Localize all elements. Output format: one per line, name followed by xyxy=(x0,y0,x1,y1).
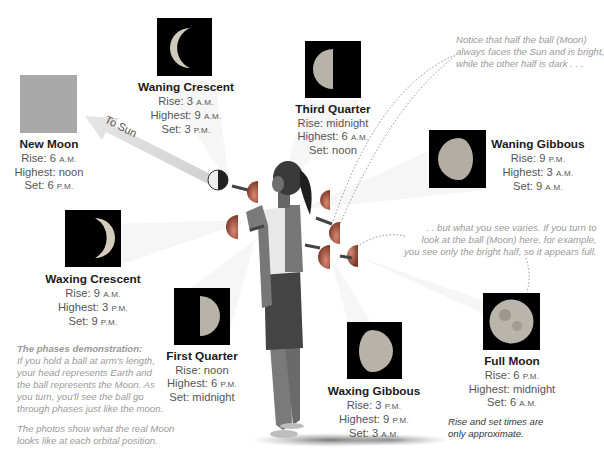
first-quarter-image xyxy=(174,288,230,345)
new-moon-image xyxy=(20,75,77,133)
third-quarter-label: Third Quarter Rise: midnight Highest: 6 … xyxy=(290,103,376,157)
note-approximate: Rise and set times are only approximate. xyxy=(448,416,543,440)
new-moon-label: New Moon Rise: 6 A.M. Highest: noon Set:… xyxy=(11,138,87,193)
full-moon-image xyxy=(483,293,540,350)
third-quarter-image xyxy=(305,41,361,98)
phase-name: New Moon xyxy=(11,138,87,151)
waxing-gibbous-image xyxy=(347,322,402,379)
waxing-crescent-image xyxy=(65,210,121,267)
note-phases-demonstration: The phases demonstration: If you hold a … xyxy=(17,343,174,447)
waxing-crescent-label: Waxing Crescent Rise: 9 A.M. Highest: 3 … xyxy=(45,273,141,329)
waning-crescent-image xyxy=(157,18,212,76)
waning-gibbous-image xyxy=(429,130,486,188)
waning-crescent-label: Waning Crescent Rise: 3 A.M. Highest: 9 … xyxy=(138,81,234,137)
full-moon-label: Full Moon Rise: 6 P.M. Highest: midnight… xyxy=(468,355,556,410)
waxing-gibbous-label: Waxing Gibbous Rise: 3 P.M. Highest: 9 P… xyxy=(326,385,422,441)
note-what-you-see: . . but what you see varies. If you turn… xyxy=(404,222,597,258)
waning-gibbous-label: Waning Gibbous Rise: 9 P.M. Highest: 3 A… xyxy=(490,138,586,194)
demo-title: The phases demonstration: xyxy=(17,343,174,355)
note-half-faces-sun: Notice that half the ball (Moon) always … xyxy=(456,34,604,70)
